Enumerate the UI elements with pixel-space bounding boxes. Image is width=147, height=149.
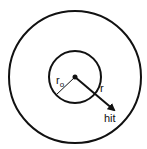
hit-label: hit — [104, 112, 116, 124]
concentric-circles-diagram: ro r hit — [0, 0, 147, 149]
center-point — [73, 75, 78, 80]
diagram-canvas: ro r hit — [0, 0, 147, 149]
hit-arrow — [75, 77, 114, 110]
radius-label: r — [100, 82, 104, 94]
inner-radius-label: ro — [56, 74, 65, 89]
